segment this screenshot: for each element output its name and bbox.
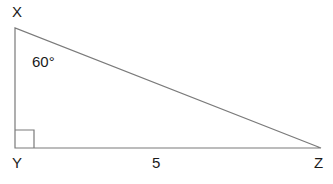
- vertex-label-x: X: [12, 3, 22, 20]
- angle-label: 60°: [32, 53, 55, 70]
- side-length-label: 5: [152, 154, 160, 171]
- right-angle-marker: [15, 130, 34, 148]
- triangle-xyz: [15, 28, 321, 148]
- triangle-diagram: X Y Z 60° 5: [0, 0, 333, 184]
- vertex-label-z: Z: [314, 154, 323, 171]
- vertex-label-y: Y: [12, 154, 22, 171]
